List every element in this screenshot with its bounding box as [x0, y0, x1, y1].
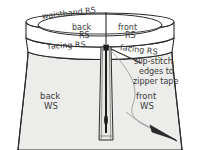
zipper-pull — [104, 115, 108, 125]
callout-line3: zipper tape — [133, 78, 178, 86]
zipper-top-stop — [103, 45, 108, 51]
label-front-ws-line1: front — [136, 92, 156, 101]
label-front-rs-line2: RS — [125, 32, 136, 40]
callout-line1: slip-stitch — [134, 58, 173, 66]
label-back-ws-line2: WS — [44, 102, 58, 111]
label-front-ws-line2: WS — [140, 102, 154, 111]
callout-line2: edges to — [139, 68, 174, 76]
sewing-diagram-figure: waistband RS back RS front RS facing RS … — [0, 0, 200, 150]
label-back-ws-line1: back — [40, 92, 60, 101]
